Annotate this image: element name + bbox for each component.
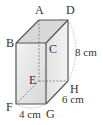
depth-label: 6 cm — [62, 93, 84, 105]
vertex-label-a: A — [35, 3, 44, 17]
height-label: 8 cm — [75, 46, 97, 58]
vertex-label-b: B — [6, 36, 14, 50]
prism-diagram: A D B C E H F G 8 cm 6 cm 4 cm — [0, 0, 103, 125]
vertex-label-e: E — [29, 73, 36, 87]
vertex-label-c: C — [49, 42, 57, 56]
vertex-label-f: F — [6, 100, 13, 114]
width-label: 4 cm — [19, 108, 41, 120]
vertex-label-g: G — [46, 107, 55, 121]
vertex-label-d: D — [66, 3, 75, 17]
